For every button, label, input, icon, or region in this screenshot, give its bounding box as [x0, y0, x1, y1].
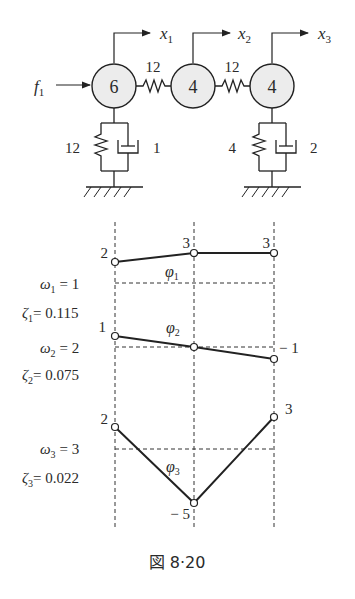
force-label: f1	[34, 77, 44, 98]
svg-text:4: 4	[189, 77, 198, 97]
mode-shape-2: 1 − 1 φ2 ω2= 2 ζ2= 0.075	[22, 319, 299, 386]
damping-ratio-2: ζ2= 0.075	[22, 367, 79, 386]
displacement-arrow-x1: x1	[114, 24, 173, 63]
coupling-spring-2: 12	[215, 59, 250, 92]
mode-shape-1: 2 3 3 φ1 ω1= 1 ζ1= 0.115	[22, 235, 278, 324]
force-arrow: f1	[34, 77, 90, 98]
displacement-arrow-x2: x2	[193, 24, 251, 63]
vibration-system-diagram: f1 x1 x2 x3 6 4 4 12	[0, 0, 355, 599]
damping-ratio-1: ζ1= 0.115	[22, 305, 78, 324]
svg-text:6: 6	[110, 77, 119, 97]
spring-constant-right: 4	[229, 140, 237, 156]
natural-frequency-2: ω2= 2	[40, 340, 79, 359]
svg-text:4: 4	[268, 77, 277, 97]
mode-label-phi2: φ2	[166, 319, 180, 338]
natural-frequency-1: ω1= 1	[40, 276, 79, 295]
damper-constant-left: 1	[153, 140, 161, 156]
mass-2: 4	[171, 64, 215, 108]
svg-text:3: 3	[285, 401, 293, 417]
mode-label-phi3: φ3	[166, 458, 180, 477]
svg-text:2: 2	[101, 245, 109, 261]
ground-support-left: 12 1	[65, 108, 161, 197]
svg-text:x2: x2	[237, 24, 251, 45]
coupling-spring-1: 12	[136, 59, 171, 92]
mode-shape-3: 2 − 5 3 φ3 ω3= 3 ζ3= 0.022	[22, 401, 293, 522]
svg-text:1: 1	[99, 319, 107, 335]
svg-text:12: 12	[225, 59, 240, 75]
displacement-arrow-x3: x3	[272, 24, 332, 63]
mode-shapes: 2 3 3 φ1 ω1= 1 ζ1= 0.115 1 − 1 φ2 ω2= 2 …	[22, 222, 299, 528]
svg-text:− 1: − 1	[279, 340, 299, 356]
ground-support-right: 4 2	[229, 108, 318, 197]
damping-ratio-3: ζ3= 0.022	[22, 470, 79, 489]
svg-text:3: 3	[263, 235, 271, 251]
svg-text:2: 2	[101, 411, 109, 427]
svg-text:x3: x3	[317, 24, 332, 45]
svg-text:− 5: − 5	[170, 506, 190, 522]
mass-1: 6	[92, 64, 136, 108]
svg-text:3: 3	[183, 235, 191, 251]
figure-caption: 図 8·20	[149, 553, 206, 572]
natural-frequency-3: ω3= 3	[40, 441, 79, 460]
mechanical-system: f1 x1 x2 x3 6 4 4 12	[34, 24, 332, 197]
svg-text:x1: x1	[159, 24, 173, 45]
damper-constant-right: 2	[310, 140, 318, 156]
mode-label-phi1: φ1	[165, 263, 179, 282]
svg-text:12: 12	[146, 59, 161, 75]
spring-constant-left: 12	[65, 140, 80, 156]
mass-3: 4	[250, 64, 294, 108]
